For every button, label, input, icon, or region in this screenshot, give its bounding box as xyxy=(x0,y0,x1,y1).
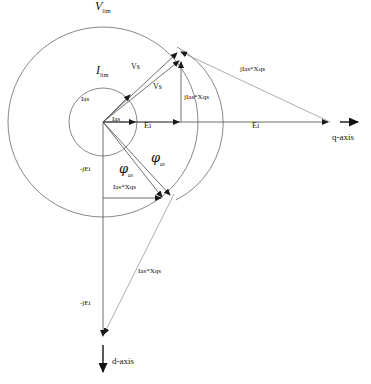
phi-subscript-left: as xyxy=(128,172,133,178)
voltage-limit-label: Vlim xyxy=(95,0,111,14)
ias-xqs-horizontal-label: Ias*Xqs xyxy=(113,184,136,191)
phi-symbol-right: φ xyxy=(151,150,160,165)
phasor-diagram-canvas xyxy=(0,0,371,384)
jias-xqs-diagonal xyxy=(181,52,330,122)
phi-as-right-label: φas xyxy=(151,149,165,168)
current-limit-label: Ilim xyxy=(96,64,109,78)
ei-short-label: Ei xyxy=(144,122,151,130)
q-axis-label: q-axis xyxy=(332,133,354,142)
ei-long-label: Ei xyxy=(252,122,259,130)
phi-subscript-right: as xyxy=(160,161,165,167)
vs-vector-inner xyxy=(103,61,179,122)
ias-xqs-diagonal-lower xyxy=(104,194,174,334)
voltage-limit-subscript: lim xyxy=(102,8,111,14)
phi-as-left-label: φas xyxy=(119,160,133,179)
phi-symbol-left: φ xyxy=(119,161,128,176)
phasor-diagram: Vlim Ilim Ias Ias Vs Vs Ei Ei jIas*Xqs j… xyxy=(0,0,371,384)
locus-arc xyxy=(176,47,223,200)
ias-upper-label: Ias xyxy=(81,96,89,103)
neg-jei-long-label: -jEi xyxy=(80,300,91,307)
vs-outer-label: Vs xyxy=(131,63,140,71)
d-axis-label: d-axis xyxy=(112,357,134,366)
vs-inner-label: Vs xyxy=(153,83,162,91)
vs-vector-outer xyxy=(103,53,177,122)
jias-xqs-diagonal-label: jIas*Xqs xyxy=(240,66,265,73)
ias-xqs-diagonal-label: Ias*Xqs xyxy=(138,268,161,275)
neg-jei-short-label: -jEi xyxy=(80,166,91,173)
current-limit-subscript: lim xyxy=(100,72,109,78)
ias-horizontal-label: Ias xyxy=(112,116,120,123)
jias-xqs-vertical-label: jIas*Xqs xyxy=(184,94,209,101)
